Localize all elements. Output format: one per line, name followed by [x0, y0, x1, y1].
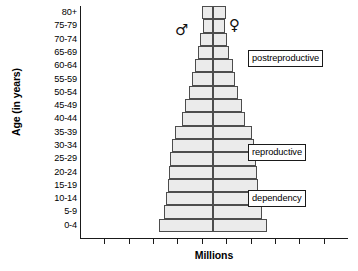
pyramid-row [80, 219, 348, 232]
bar-male [202, 6, 214, 19]
bar-female [213, 33, 227, 46]
x-axis-tick [177, 239, 178, 244]
x-axis-tick [299, 239, 300, 244]
bar-male [164, 205, 213, 218]
bar-male [175, 126, 213, 139]
bar-male [172, 139, 213, 152]
male-symbol-icon: ♂ [175, 23, 188, 38]
bar-female [213, 72, 235, 85]
y-axis-label: 30-34 [24, 141, 77, 150]
bar-female [213, 205, 262, 218]
y-axis-tick-labels: 80+75-7970-7465-6960-6455-5950-5445-4940… [24, 6, 77, 232]
annotation-reproductive: reproductive [248, 144, 306, 161]
y-axis-title: Age (in years) [10, 42, 22, 162]
x-axis-tick [153, 239, 154, 244]
bar-male [182, 112, 213, 125]
y-axis-label: 65-69 [24, 48, 77, 57]
bar-male [168, 179, 213, 192]
y-axis-label: 5-9 [24, 207, 77, 216]
x-axis-tick [324, 239, 325, 244]
bar-female [213, 99, 242, 112]
y-axis-label: 70-74 [24, 35, 77, 44]
bar-female [213, 112, 245, 125]
y-axis-label: 80+ [24, 8, 77, 17]
y-axis-label: 20-24 [24, 168, 77, 177]
pyramid-row [80, 6, 348, 19]
annotation-dependency: dependency [248, 190, 306, 207]
pyramid-row [80, 166, 348, 179]
bar-female [213, 6, 226, 19]
bar-male [195, 59, 213, 72]
y-axis-label: 45-49 [24, 101, 77, 110]
bar-male [192, 72, 213, 85]
y-axis-label: 55-59 [24, 75, 77, 84]
bar-male [198, 46, 213, 59]
x-axis-tick [129, 239, 130, 244]
pyramid-row [80, 86, 348, 99]
annotation-postreproductive: postreproductive [248, 50, 323, 67]
x-axis-tick [104, 239, 105, 244]
bar-female [213, 219, 267, 232]
female-symbol-icon: ♀ [229, 18, 240, 33]
population-pyramid-chart: Age (in years) 80+75-7970-7465-6960-6455… [0, 0, 358, 271]
pyramid-row [80, 192, 348, 205]
pyramid-bars [80, 6, 348, 238]
bar-male [189, 86, 213, 99]
pyramid-row [80, 112, 348, 125]
x-axis-title: Millions [80, 249, 348, 261]
pyramid-row [80, 205, 348, 218]
pyramid-row [80, 72, 348, 85]
pyramid-row [80, 19, 348, 32]
x-axis-tick [275, 239, 276, 244]
y-axis-label: 15-19 [24, 181, 77, 190]
bar-male [166, 192, 213, 205]
x-axis-tick [251, 239, 252, 244]
y-axis-label: 0-4 [24, 221, 77, 230]
y-axis-label: 35-39 [24, 128, 77, 137]
x-axis-line [80, 238, 348, 239]
y-axis-label: 50-54 [24, 88, 77, 97]
pyramid-row [80, 139, 348, 152]
pyramid-row [80, 33, 348, 46]
bar-female [213, 86, 238, 99]
y-axis-label: 10-14 [24, 194, 77, 203]
pyramid-row [80, 126, 348, 139]
x-axis-tick [202, 239, 203, 244]
pyramid-row [80, 152, 348, 165]
x-axis-tick [226, 239, 227, 244]
bar-female [213, 59, 233, 72]
bar-male [203, 19, 213, 32]
bar-female [213, 166, 257, 179]
y-axis-label: 60-64 [24, 61, 77, 70]
bar-female [213, 19, 225, 32]
bar-male [169, 166, 213, 179]
pyramid-row [80, 99, 348, 112]
y-axis-label: 75-79 [24, 21, 77, 30]
y-axis-label: 40-44 [24, 114, 77, 123]
y-axis-label: 25-29 [24, 154, 77, 163]
bar-female [213, 46, 229, 59]
bar-female [213, 126, 252, 139]
bar-male [170, 152, 213, 165]
pyramid-row [80, 179, 348, 192]
bar-male [185, 99, 213, 112]
bar-male [200, 33, 213, 46]
bar-male [159, 219, 213, 232]
